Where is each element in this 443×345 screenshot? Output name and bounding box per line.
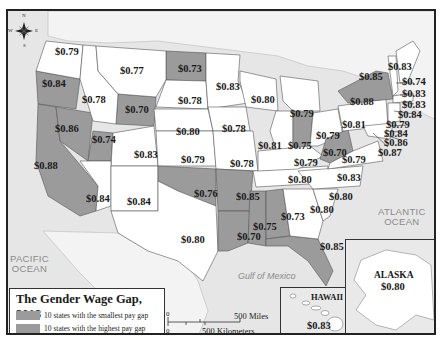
state-value-indiana: $0.75 xyxy=(288,141,312,152)
alaska-inset: ALASKA $0.80 xyxy=(345,239,436,335)
state-value-maine: $0.83 xyxy=(388,62,412,73)
legend-item-highest-gap: 10 states with the highest pay gap xyxy=(16,323,145,333)
state-value-wisconsin: $0.80 xyxy=(251,95,275,106)
legend-swatch xyxy=(16,324,40,333)
state-value-idaho: $0.78 xyxy=(82,95,106,106)
state-value-minnesota: $0.83 xyxy=(216,82,240,93)
state-value-georgia: $0.80 xyxy=(310,205,334,216)
state-value-tennessee: $0.80 xyxy=(288,175,312,186)
pacific-ocean-label: PACIFICOCEAN xyxy=(10,254,49,274)
scale-zero-bottom: 0 xyxy=(166,327,170,335)
scale-km: 500 Kilometers xyxy=(202,326,255,335)
state-value-north-carolina: $0.83 xyxy=(337,173,361,184)
hawaii-inset: HAWAII $0.83 xyxy=(280,287,346,335)
compass-e: E xyxy=(35,28,38,33)
state-value-nebraska: $0.80 xyxy=(176,127,200,138)
state-value-vermont: $0.85 xyxy=(359,72,383,83)
state-value-arkansas: $0.85 xyxy=(236,192,260,203)
hawaii-label: HAWAII xyxy=(311,292,343,302)
state-value-south-dakota: $0.78 xyxy=(178,96,202,107)
state-value-louisiana: $0.70 xyxy=(237,232,261,243)
state-value-alaska: $0.80 xyxy=(381,282,405,293)
scale-miles: 500 Miles xyxy=(234,311,268,321)
state-value-new-hampshire: $0.74 xyxy=(402,77,426,88)
state-value-pennsylvania: $0.81 xyxy=(342,120,366,131)
state-value-kentucky: $0.79 xyxy=(294,158,318,169)
state-value-oklahoma: $0.76 xyxy=(194,189,218,200)
state-value-montana: $0.77 xyxy=(120,66,144,77)
scale-zero-top: 0 xyxy=(166,310,170,318)
state-value-missouri: $0.78 xyxy=(230,159,254,170)
state-value-california: $0.88 xyxy=(34,161,58,172)
state-value-colorado: $0.83 xyxy=(134,150,158,161)
state-value-illinois: $0.81 xyxy=(258,141,282,152)
alaska-label: ALASKA xyxy=(374,270,414,280)
legend-item-smallest-gap: 10 states with the smallest pay gap xyxy=(16,310,148,320)
state-value-nevada: $0.86 xyxy=(55,124,79,135)
state-value-massachusetts: $0.83 xyxy=(402,89,426,100)
gulf-of-mexico-label: Gulf of Mexico xyxy=(238,271,296,281)
compass-n: N xyxy=(22,13,26,18)
atlantic-ocean-label: ATLANTICOCEAN xyxy=(378,207,426,227)
state-value-texas: $0.80 xyxy=(181,235,205,246)
state-value-new-mexico: $0.84 xyxy=(127,197,151,208)
state-value-michigan: $0.79 xyxy=(290,109,314,120)
legend-label: 10 states with the highest pay gap xyxy=(44,324,145,333)
legend-swatch xyxy=(16,311,40,320)
state-value-ohio: $0.79 xyxy=(316,131,340,142)
state-value-arizona: $0.84 xyxy=(86,194,110,205)
state-value-alabama: $0.73 xyxy=(281,212,305,223)
state-value-oregon: $0.84 xyxy=(42,79,66,90)
state-value-hawaii: $0.83 xyxy=(307,321,331,332)
state-value-washington: $0.79 xyxy=(55,47,79,58)
state-value-florida: $0.85 xyxy=(320,242,344,253)
state-value-iowa: $0.78 xyxy=(222,124,246,135)
legend: The Gender Wage Gap, 2018 10 states with… xyxy=(9,288,165,334)
state-value-kansas: $0.79 xyxy=(181,155,205,166)
state-value-new-york: $0.88 xyxy=(350,97,374,108)
state-value-wyoming: $0.70 xyxy=(125,105,149,116)
state-value-south-carolina: $0.80 xyxy=(329,192,353,203)
map-frame: N W E S PACIFICOCEAN ATLANTICOCEAN Gulf … xyxy=(6,9,436,335)
state-value-utah: $0.74 xyxy=(92,135,116,146)
state-value-north-dakota: $0.73 xyxy=(178,64,202,75)
state-value-virginia: $0.79 xyxy=(342,155,366,166)
legend-label: 10 states with the smallest pay gap xyxy=(44,311,148,320)
state-value-dc: $0.87 xyxy=(378,148,402,159)
compass-w: W xyxy=(8,28,13,33)
compass-s: S xyxy=(23,43,26,48)
